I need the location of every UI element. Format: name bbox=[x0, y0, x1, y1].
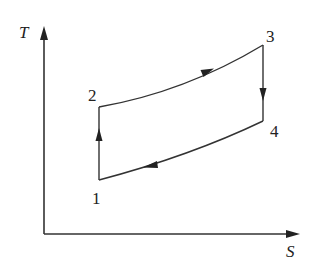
ts-diagram: T S 1 2 3 4 bbox=[0, 0, 310, 272]
process-4-1-arrow-icon bbox=[143, 161, 158, 168]
cycle bbox=[96, 45, 267, 180]
x-axis-arrow-icon bbox=[286, 230, 300, 238]
process-2-3 bbox=[99, 45, 263, 107]
state-label-3: 3 bbox=[266, 27, 275, 46]
state-label-4: 4 bbox=[270, 122, 279, 141]
process-1-2-arrow-icon bbox=[96, 128, 103, 141]
state-label-1: 1 bbox=[92, 189, 101, 208]
x-axis-label: S bbox=[286, 242, 295, 261]
y-axis-label: T bbox=[19, 23, 30, 42]
process-4-1 bbox=[99, 121, 263, 180]
state-label-2: 2 bbox=[88, 86, 97, 105]
y-axis-arrow-icon bbox=[40, 26, 48, 40]
axes bbox=[40, 26, 300, 238]
process-3-4-arrow-icon bbox=[260, 88, 267, 101]
